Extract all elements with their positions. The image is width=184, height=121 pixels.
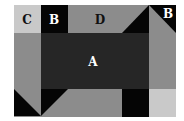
label-b-left: B xyxy=(49,13,59,27)
region-black-square-bottom xyxy=(122,89,149,117)
region-diagram: C B D B A xyxy=(0,0,184,121)
label-d: D xyxy=(95,13,105,27)
label-c: C xyxy=(22,13,32,27)
label-a: A xyxy=(87,55,98,69)
label-b-right: B xyxy=(163,7,173,21)
region-light-square-bottom-right xyxy=(149,89,176,117)
